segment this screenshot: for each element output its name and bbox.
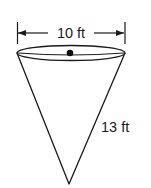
slant-height-label: 13 ft	[101, 119, 129, 135]
arrow-left-icon	[18, 30, 26, 36]
arrow-right-icon	[116, 30, 124, 36]
center-point	[67, 50, 74, 57]
cone-diagram: 10 ft 13 ft	[0, 0, 151, 188]
diameter-label: 10 ft	[57, 25, 85, 41]
